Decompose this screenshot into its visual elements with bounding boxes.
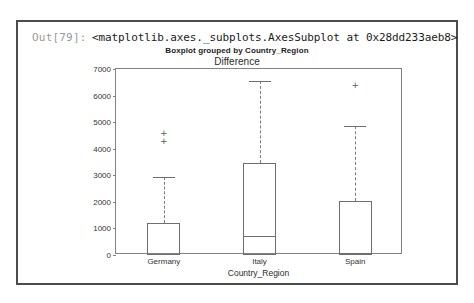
x-tick-label: Germany	[147, 257, 180, 266]
median-line	[243, 236, 276, 237]
whisker-cap-upper	[344, 126, 366, 127]
matplotlib-figure: Boxplot grouped by Country_Region Differ…	[18, 46, 456, 285]
outlier-marker: +	[160, 136, 168, 145]
y-tick-label: 4000	[93, 144, 111, 153]
x-tick-label: Spain	[345, 257, 365, 266]
box-italy	[243, 163, 276, 255]
y-tick-label: 7000	[93, 65, 111, 74]
jupyter-output-cell: Out[79]: <matplotlib.axes._subplots.Axes…	[16, 20, 458, 285]
output-repr-text: <matplotlib.axes._subplots.AxesSubplot a…	[92, 31, 457, 44]
y-tick-mark	[113, 69, 116, 70]
median-line	[339, 253, 372, 254]
y-tick-label: 1000	[93, 224, 111, 233]
x-axis-label: Country_Region	[115, 268, 402, 278]
figure-suptitle: Boxplot grouped by Country_Region	[18, 46, 456, 55]
y-tick-mark	[113, 149, 116, 150]
outlier-marker: +	[351, 80, 359, 89]
median-line	[147, 254, 180, 255]
y-tick-label: 6000	[93, 91, 111, 100]
box-spain	[339, 201, 372, 255]
y-tick-label: 2000	[93, 197, 111, 206]
whisker-upper	[260, 81, 261, 163]
y-tick-mark	[113, 255, 116, 256]
whisker-upper	[355, 126, 356, 200]
whisker-cap-upper	[153, 177, 175, 178]
y-tick-mark	[113, 202, 116, 203]
y-tick-mark	[113, 228, 116, 229]
output-prompt-label: Out[79]:	[32, 31, 87, 44]
box-germany	[147, 223, 180, 255]
outlier-marker: +	[160, 128, 168, 137]
plot-area: 01000200030004000500060007000 GermanyIta…	[115, 68, 402, 254]
y-tick-mark	[113, 96, 116, 97]
whisker-cap-upper	[249, 81, 271, 82]
axes-title: Difference	[18, 56, 456, 67]
y-tick-label: 3000	[93, 171, 111, 180]
y-tick-mark	[113, 175, 116, 176]
whisker-upper	[164, 177, 165, 224]
y-tick-mark	[113, 122, 116, 123]
x-tick-label: Italy	[252, 257, 267, 266]
y-tick-label: 5000	[93, 118, 111, 127]
y-tick-label: 0	[107, 251, 111, 260]
